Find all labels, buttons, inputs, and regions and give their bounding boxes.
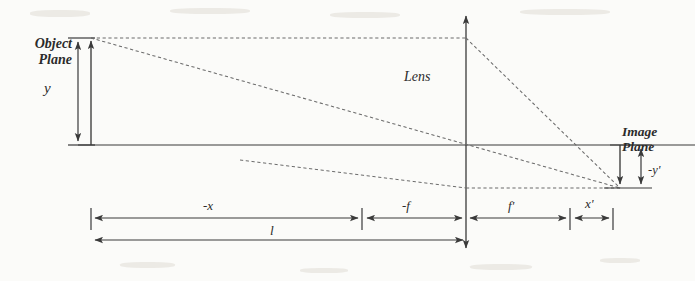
scan-speck xyxy=(600,258,640,263)
scan-speck xyxy=(170,8,250,14)
front-focal-length-label: -f xyxy=(402,199,410,214)
image-plane-label-line1: Image xyxy=(622,124,692,139)
scan-speck xyxy=(300,268,348,273)
focal-ray-incident xyxy=(91,38,466,188)
parallel-ray-refracted xyxy=(466,38,620,188)
scan-speck xyxy=(120,262,175,268)
image-distance-label: x' xyxy=(585,197,594,212)
image-height-label: -y' xyxy=(648,163,660,177)
object-plane-label: Object Plane xyxy=(6,36,72,67)
object-height-label: y xyxy=(44,80,51,97)
image-plane-label-line2: Plane xyxy=(622,139,692,154)
image-plane-label: Image Plane xyxy=(622,124,692,154)
lens-label: Lens xyxy=(404,69,430,85)
scan-speck xyxy=(470,264,532,270)
object-plane-label-line2: Plane xyxy=(6,52,72,68)
optics-ray-diagram xyxy=(0,0,695,281)
focal-ray-extension xyxy=(240,160,466,188)
object-distance-label: -x xyxy=(203,199,213,214)
chief-ray xyxy=(91,38,620,188)
scan-speck xyxy=(330,12,400,18)
scan-speck xyxy=(30,10,90,17)
object-to-lens-distance-label: l xyxy=(270,223,274,238)
object-plane-label-line1: Object xyxy=(6,36,72,52)
rear-focal-length-label: f' xyxy=(508,199,514,214)
scan-speck xyxy=(520,9,610,15)
